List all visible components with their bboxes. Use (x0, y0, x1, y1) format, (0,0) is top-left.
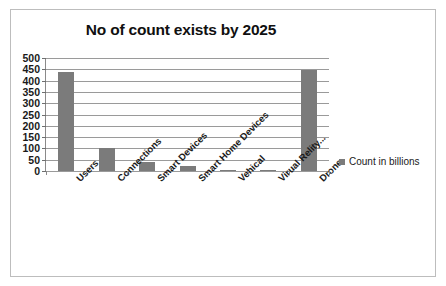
bar (180, 166, 196, 171)
y-axis-tick (42, 58, 46, 59)
y-axis-tick (42, 160, 46, 161)
y-axis-tick-label: 400 (22, 75, 40, 87)
y-axis-tick-label: 500 (22, 52, 40, 64)
gridline (46, 126, 329, 127)
gridline (46, 92, 329, 93)
chart-title: No of count exists by 2025 (11, 21, 351, 39)
y-axis-tick (42, 69, 46, 70)
y-axis-tick (42, 137, 46, 138)
y-axis-tick (42, 92, 46, 93)
gridline (46, 103, 329, 104)
gridline (46, 69, 329, 70)
bar (260, 170, 276, 171)
y-axis-tick (42, 148, 46, 149)
y-axis-tick-label: 450 (22, 63, 40, 75)
gridline (46, 115, 329, 116)
bar (220, 170, 236, 171)
x-axis-tick-label: Virual Relity... (276, 176, 284, 184)
y-axis-tick-label: 300 (22, 97, 40, 109)
y-axis-tick-label: 50 (28, 154, 40, 166)
x-axis-tick-label: Users (74, 176, 82, 184)
y-axis-tick-label: 150 (22, 131, 40, 143)
y-axis-tick-label: 0 (34, 165, 40, 177)
y-axis-tick-label: 200 (22, 120, 40, 132)
x-axis-tick (167, 171, 168, 175)
x-axis-tick (329, 171, 330, 175)
bar (58, 72, 74, 171)
square-marker-icon (339, 159, 345, 165)
gridline (46, 58, 329, 59)
x-axis-tick-label: Smart Home Devices (196, 176, 204, 184)
x-axis-tick (127, 171, 128, 175)
x-axis-tick-label: Drone (317, 176, 325, 184)
chart-legend: Count in billions (339, 156, 420, 167)
chart-frame: No of count exists by 2025 0501001502002… (10, 9, 436, 277)
x-axis-tick-label: Vehical (236, 176, 244, 184)
x-axis-tick (46, 171, 47, 175)
y-axis-tick-label: 350 (22, 86, 40, 98)
y-axis-tick (42, 81, 46, 82)
y-axis-tick (42, 126, 46, 127)
y-axis-tick (42, 115, 46, 116)
x-axis-tick (248, 171, 249, 175)
y-axis-tick (42, 103, 46, 104)
legend-item-label: Count in billions (349, 156, 420, 167)
plot-area: 050100150200250300350400450500 UsersConn… (46, 58, 329, 171)
gridline (46, 137, 329, 138)
x-axis-tick-label: Connections (115, 176, 123, 184)
y-axis-tick-label: 100 (22, 142, 40, 154)
x-axis-tick (289, 171, 290, 175)
x-axis-tick-label: Smart Devices (155, 176, 163, 184)
x-axis-tick (208, 171, 209, 175)
x-axis-tick (86, 171, 87, 175)
bar (99, 148, 115, 171)
gridline (46, 81, 329, 82)
y-axis-tick-label: 250 (22, 109, 40, 121)
